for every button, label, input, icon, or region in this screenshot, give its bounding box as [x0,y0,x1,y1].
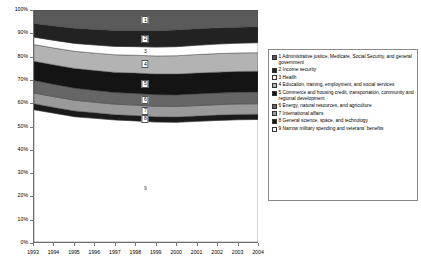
legend-item-label: 7 International affairs [279,111,324,117]
legend-item-label: 9 Narrow military spending and veterans'… [279,126,384,132]
y-axis-tick-label: 40% [18,147,28,152]
legend-item-7[interactable]: 7 International affairs [272,111,414,117]
x-axis-tick-label: 2004 [252,250,264,255]
x-axis-tick-label: 1998 [129,250,141,255]
y-axis-tick-mark [30,10,33,11]
band-data-label-3: 3 [143,48,148,54]
chart-legend: 1 Administrative justice, Medicare, Soci… [268,49,418,201]
y-axis-tick-mark [30,103,33,104]
x-axis-tick-mark [53,243,54,246]
x-axis-tick-mark [74,243,75,246]
band-data-label-1: 1 [142,16,149,24]
x-axis-tick-label: 2002 [211,250,223,255]
legend-item-label: 3 Health [279,75,297,81]
band-data-label-5: 5 [142,80,149,88]
x-axis-tick-mark [176,243,177,246]
x-axis-tick-label: 1995 [68,250,80,255]
legend-swatch-icon-8 [272,119,277,124]
x-axis-tick-mark [197,243,198,246]
y-axis-tick-mark [30,150,33,151]
x-axis: 1993199419951996199719981999200020012002… [33,246,258,260]
y-axis-tick-label: 0% [21,240,29,245]
y-axis-tick-label: 20% [18,194,28,199]
legend-swatch-icon-9 [272,127,277,132]
y-axis-tick-label: 60% [18,101,28,106]
x-axis-tick-mark [238,243,239,246]
legend-item-label: 4 Education, training, employment, and s… [279,82,395,88]
y-axis-tick-mark [30,220,33,221]
legend-swatch-icon-6 [272,104,277,109]
x-axis-tick-label: 2001 [191,250,203,255]
x-axis-tick-mark [94,243,95,246]
x-axis-tick-label: 1994 [48,250,60,255]
y-axis-tick-label: 70% [18,77,28,82]
legend-item-6[interactable]: 6 Energy, natural resources, and agricul… [272,103,414,109]
band-data-label-6: 6 [142,96,149,104]
band-data-label-8: 8 [142,115,149,123]
x-axis-tick-mark [115,243,116,246]
x-axis-tick-label: 2003 [232,250,244,255]
legend-item-2[interactable]: 2 Income security [272,67,414,73]
legend-swatch-icon-3 [272,75,277,80]
y-axis-tick-label: 100% [15,7,28,12]
legend-item-9[interactable]: 9 Narrow military spending and veterans'… [272,126,414,132]
y-axis-tick-label: 30% [18,170,28,175]
band-data-label-7: 7 [142,107,149,115]
legend-item-label: 5 Commerce and housing credit, transport… [279,90,414,101]
x-axis-tick-mark [135,243,136,246]
y-axis-tick-label: 10% [18,217,28,222]
legend-swatch-icon-1 [272,55,277,60]
y-axis-tick-label: 90% [18,31,28,36]
chart-plot-area: 100%90%80%70%60%50%40%30%20%10%0% 123456… [0,0,268,273]
x-axis-tick-mark [156,243,157,246]
band-data-label-4: 4 [142,60,149,68]
legend-item-label: 8 General science, space, and technology [279,118,368,124]
stacked-area-chart [33,10,258,243]
x-axis-tick-label: 1997 [109,250,121,255]
y-axis-tick-mark [30,196,33,197]
legend-item-8[interactable]: 8 General science, space, and technology [272,118,414,124]
y-axis-tick-label: 80% [18,54,28,59]
y-axis-tick-mark [30,127,33,128]
y-axis-tick-mark [30,243,33,244]
chart-page: 100%90%80%70%60%50%40%30%20%10%0% 123456… [0,0,421,273]
legend-swatch-icon-2 [272,68,277,73]
legend-item-label: 2 Income security [279,67,317,73]
legend-item-5[interactable]: 5 Commerce and housing credit, transport… [272,90,414,101]
x-axis-tick-mark [33,243,34,246]
area-series-svg [34,10,258,242]
x-axis-tick-mark [258,243,259,246]
y-axis: 100%90%80%70%60%50%40%30%20%10%0% [0,0,30,245]
x-axis-tick-label: 2000 [170,250,182,255]
legend-item-label: 6 Energy, natural resources, and agricul… [279,103,372,109]
x-axis-tick-label: 1999 [150,250,162,255]
legend-swatch-icon-5 [272,91,277,96]
y-axis-tick-label: 50% [18,124,28,129]
x-axis-tick-label: 1993 [27,250,39,255]
y-axis-tick-mark [30,33,33,34]
legend-item-1[interactable]: 1 Administrative justice, Medicare, Soci… [272,54,414,65]
y-axis-tick-mark [30,173,33,174]
legend-item-4[interactable]: 4 Education, training, employment, and s… [272,82,414,88]
band-data-label-9: 9 [143,185,148,191]
x-axis-tick-mark [217,243,218,246]
x-axis-tick-label: 1996 [89,250,101,255]
y-axis-tick-mark [30,57,33,58]
y-axis-tick-mark [30,80,33,81]
area-band-9 [34,110,258,242]
legend-item-3[interactable]: 3 Health [272,75,414,81]
legend-swatch-icon-7 [272,111,277,116]
band-data-label-2: 2 [142,35,149,43]
legend-item-label: 1 Administrative justice, Medicare, Soci… [279,54,414,65]
legend-swatch-icon-4 [272,83,277,88]
